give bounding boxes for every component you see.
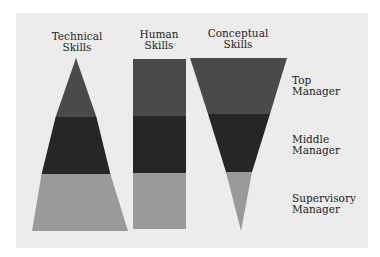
human-skills-shape <box>133 59 186 229</box>
column-label-conceptual: Conceptual Skills <box>205 28 271 50</box>
label-line: Manager <box>292 86 340 97</box>
label-line: Manager <box>292 145 340 156</box>
technical-skills-shape <box>32 58 128 231</box>
row-label-middle: Middle Manager <box>292 134 340 156</box>
conceptual-skills-shape <box>190 58 287 231</box>
row-label-supervisory: Supervisory Manager <box>292 193 356 215</box>
column-label-human: Human Skills <box>128 29 190 51</box>
column-label-technical: Technical Skills <box>46 31 108 53</box>
label-line: Manager <box>292 204 356 215</box>
row-label-top: Top Manager <box>292 75 340 97</box>
label-line: Skills <box>128 40 190 51</box>
label-line: Skills <box>205 39 271 50</box>
label-line: Skills <box>46 42 108 53</box>
